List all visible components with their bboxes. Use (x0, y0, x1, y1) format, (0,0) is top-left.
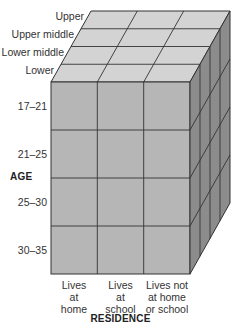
residence-label-home-line2: at (51, 291, 97, 303)
depth-label-upper-middle: Upper middle (12, 28, 74, 40)
residence-label-school-line1: Lives (97, 279, 144, 291)
residence-label-home: Lives at home (51, 279, 97, 315)
residence-label-neither-line2: at home (140, 291, 194, 303)
residence-axis-title: RESIDENCE (51, 313, 190, 324)
age-label-30-35: 30–35 (18, 244, 47, 256)
depth-label-lower-middle: Lower middle (2, 46, 64, 58)
age-label-17-21: 17–21 (18, 100, 47, 112)
age-axis-title: AGE (10, 171, 32, 183)
residence-label-home-line1: Lives (51, 279, 97, 291)
residence-label-neither-line1: Lives not (140, 279, 194, 291)
depth-label-upper: Upper (55, 10, 84, 22)
age-label-21-25: 21–25 (18, 148, 47, 160)
residence-label-school: Lives at school (97, 279, 144, 315)
residence-label-school-line2: at (97, 291, 144, 303)
residence-label-neither: Lives not at home or school (140, 279, 194, 315)
depth-label-lower: Lower (25, 64, 54, 76)
age-label-25-30: 25–30 (18, 196, 47, 208)
